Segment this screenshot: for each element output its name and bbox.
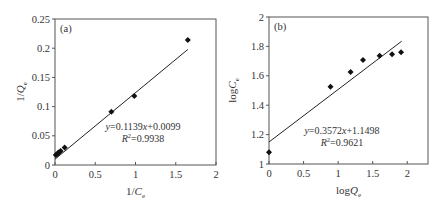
y-tick-label: 0.2 xyxy=(37,43,50,54)
figure: 00.511.5200.050.10.150.20.251/Ce1/Qe(a)y… xyxy=(0,0,444,208)
regression-equation: y=0.1139x+0.0099 xyxy=(105,121,181,132)
y-tick-label: 0.15 xyxy=(32,72,50,83)
y-tick-label: 1.4 xyxy=(251,100,265,111)
data-point-marker xyxy=(389,51,395,57)
x-tick-label: 2 xyxy=(213,169,218,180)
x-tick-label: 1.5 xyxy=(169,169,182,180)
data-point-marker xyxy=(377,53,383,59)
data-point-marker xyxy=(185,37,191,43)
y-tick-label: 1.2 xyxy=(251,129,264,140)
y-tick-label: 1.8 xyxy=(251,41,264,52)
y-tick-label: 0.1 xyxy=(37,101,50,112)
data-point-marker xyxy=(328,84,334,90)
x-axis-label: logQe xyxy=(336,184,361,199)
data-point-marker xyxy=(360,57,366,63)
y-axis-label: 1/Qe xyxy=(14,82,29,102)
panel-label: (b) xyxy=(274,21,287,33)
panel-label: (a) xyxy=(60,23,72,35)
y-axis-label: logCe xyxy=(226,78,241,103)
y-tick-label: 2 xyxy=(259,12,264,23)
data-point-marker xyxy=(348,69,354,75)
y-tick-label: 0 xyxy=(45,160,50,171)
x-tick-label: 1 xyxy=(336,168,341,179)
x-tick-label: 0.5 xyxy=(297,168,310,179)
data-point-marker xyxy=(266,149,272,155)
x-tick-label: 2 xyxy=(405,168,410,179)
chart-panel-a: 00.511.5200.050.10.150.20.251/Ce1/Qe(a)y… xyxy=(14,14,219,201)
x-tick-label: 1.5 xyxy=(366,168,379,179)
r-squared-value: R2=0.9938 xyxy=(121,132,165,144)
y-tick-label: 0.25 xyxy=(32,14,50,25)
y-tick-label: 0.05 xyxy=(32,130,50,141)
y-tick-label: 1.6 xyxy=(251,70,264,81)
y-tick-label: 1 xyxy=(259,159,264,170)
data-point-marker xyxy=(131,93,137,99)
regression-equation: y=0.3572x+1.1498 xyxy=(303,125,379,136)
x-tick-label: 1 xyxy=(133,169,138,180)
r-squared-value: R2=0.9621 xyxy=(320,136,364,148)
data-point-marker xyxy=(398,49,404,55)
x-tick-label: 0.5 xyxy=(89,169,102,180)
x-axis-label: 1/Ce xyxy=(126,185,145,200)
x-tick-label: 0 xyxy=(52,169,57,180)
x-tick-label: 0 xyxy=(266,168,271,179)
chart-panel-b: 00.511.5211.21.41.61.82logQelogCe(b)y=0.… xyxy=(226,12,428,200)
